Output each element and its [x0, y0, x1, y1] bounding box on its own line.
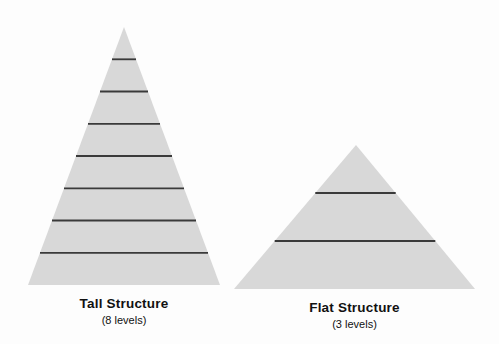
pyramid-flat	[234, 145, 475, 289]
pyramid-sublabel: (8 levels)	[24, 314, 224, 327]
pyramid-sublabel: (3 levels)	[255, 318, 455, 331]
caption-flat-structure: Flat Structure (3 levels)	[255, 300, 455, 330]
pyramid-title: Flat Structure	[255, 300, 455, 316]
pyramid-title: Tall Structure	[24, 296, 224, 312]
diagram-canvas: Tall Structure (8 levels) Flat Structure…	[0, 0, 499, 344]
caption-tall-structure: Tall Structure (8 levels)	[24, 296, 224, 326]
pyramids-drawing	[0, 0, 499, 344]
